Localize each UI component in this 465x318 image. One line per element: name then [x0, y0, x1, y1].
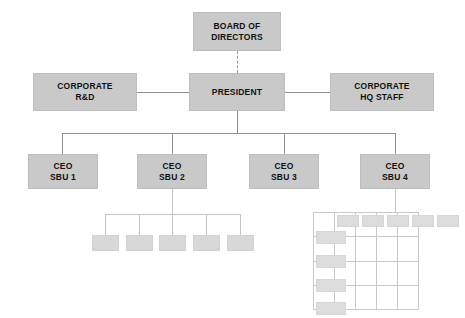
- connector-board-president-dashed: [237, 51, 238, 73]
- connector-sbu2-drop-1: [105, 214, 106, 235]
- org-chart-canvas: BOARD OF DIRECTORS PRESIDENT CORPORATE R…: [0, 0, 465, 318]
- node-ceo-sbu-1-line2: SBU 1: [50, 172, 76, 183]
- connector-bus-to-sbu4: [395, 133, 396, 154]
- node-board-line2: DIRECTORS: [211, 32, 263, 43]
- matrix-row-label-2[interactable]: [316, 255, 346, 268]
- matrix-column-header-5[interactable]: [437, 215, 459, 227]
- connector-bus-to-sbu2: [172, 133, 173, 154]
- connector-sbu2-drop-2: [139, 214, 140, 235]
- connector-sbu2-drop-5: [240, 214, 241, 235]
- matrix-column-header-3[interactable]: [387, 215, 409, 227]
- node-ceo-sbu-4-line1: CEO: [385, 161, 404, 172]
- node-board-line1: BOARD OF: [214, 21, 261, 32]
- matrix-grid-hline-top: [313, 212, 419, 213]
- matrix-column-header-2[interactable]: [362, 215, 384, 227]
- connector-sbu2-drop-3: [172, 214, 173, 235]
- connector-rd-to-president: [137, 92, 189, 93]
- connector-sbu2-drop-4: [206, 214, 207, 235]
- matrix-row-label-3[interactable]: [316, 279, 346, 292]
- connector-president-to-hq: [285, 92, 330, 93]
- connector-ceo-bus: [62, 133, 396, 134]
- node-ceo-sbu-3-line1: CEO: [274, 161, 293, 172]
- node-ceo-sbu-4[interactable]: CEO SBU 4: [360, 154, 430, 189]
- node-sbu2-unit-3[interactable]: [159, 235, 186, 251]
- node-ceo-sbu-2-line2: SBU 2: [159, 172, 185, 183]
- matrix-row-label-4[interactable]: [316, 302, 346, 315]
- node-board-of-directors[interactable]: BOARD OF DIRECTORS: [193, 12, 281, 51]
- node-corporate-hq-line2: HQ STAFF: [360, 92, 403, 103]
- node-corporate-rd[interactable]: CORPORATE R&D: [33, 73, 137, 111]
- node-ceo-sbu-4-line2: SBU 4: [382, 172, 408, 183]
- node-sbu2-unit-1[interactable]: [92, 235, 119, 251]
- node-corporate-rd-line2: R&D: [75, 92, 94, 103]
- connector-sbu4-down: [395, 189, 396, 212]
- connector-bus-to-sbu3: [284, 133, 285, 154]
- node-corporate-rd-line1: CORPORATE: [57, 81, 112, 92]
- node-president-line1: PRESIDENT: [212, 87, 262, 98]
- node-ceo-sbu-1-line1: CEO: [53, 161, 72, 172]
- node-sbu2-unit-5[interactable]: [227, 235, 254, 251]
- node-president[interactable]: PRESIDENT: [189, 73, 285, 111]
- connector-sbu2-down: [172, 189, 173, 214]
- node-sbu2-unit-2[interactable]: [126, 235, 153, 251]
- node-corporate-hq-staff[interactable]: CORPORATE HQ STAFF: [330, 73, 434, 111]
- node-sbu2-unit-4[interactable]: [193, 235, 220, 251]
- matrix-column-header-4[interactable]: [412, 215, 434, 227]
- node-ceo-sbu-3-line2: SBU 3: [271, 172, 297, 183]
- connector-bus-to-sbu1: [62, 133, 63, 154]
- node-ceo-sbu-2-line1: CEO: [162, 161, 181, 172]
- node-ceo-sbu-2[interactable]: CEO SBU 2: [137, 154, 207, 189]
- matrix-row-label-1[interactable]: [316, 231, 346, 244]
- node-corporate-hq-line1: CORPORATE: [354, 81, 409, 92]
- node-ceo-sbu-1[interactable]: CEO SBU 1: [28, 154, 98, 189]
- matrix-column-header-1[interactable]: [337, 215, 359, 227]
- matrix-grid-vline-left: [313, 212, 314, 310]
- connector-president-down: [237, 111, 238, 133]
- node-ceo-sbu-3[interactable]: CEO SBU 3: [249, 154, 319, 189]
